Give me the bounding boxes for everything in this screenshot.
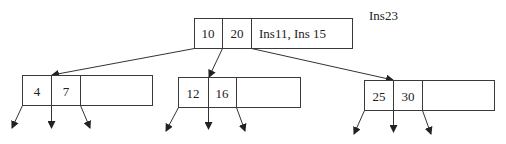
middle-child-pointer-1: [166, 108, 179, 132]
right-key-1: 25: [373, 89, 386, 104]
edge-root-to-right: [252, 49, 394, 81]
edge-root-to-left: [52, 49, 195, 76]
left-child-node: 4 7: [23, 76, 153, 106]
right-key-2: 30: [402, 89, 415, 104]
root-insert-note: Ins11, Ins 15: [259, 26, 326, 41]
middle-key-1: 12: [187, 86, 200, 101]
right-child-node: 25 30: [365, 81, 495, 111]
left-key-2: 7: [63, 84, 70, 99]
left-key-1: 4: [34, 84, 41, 99]
right-empty-cell: [423, 81, 495, 111]
right-child-pointer-1: [354, 111, 365, 135]
edge-root-to-middle: [209, 49, 223, 78]
left-empty-cell: [81, 76, 153, 106]
right-child-pointer-3: [423, 111, 432, 135]
insert-annotation: Ins23: [369, 8, 398, 23]
root-key-2: 20: [231, 26, 244, 41]
middle-empty-cell: [237, 78, 301, 108]
middle-key-2: 16: [216, 86, 230, 101]
b-tree-diagram: 10 20 Ins11, Ins 15 Ins23 4 7 12 16 25 3…: [0, 0, 506, 144]
left-child-pointer-1: [12, 106, 23, 129]
root-node: 10 20 Ins11, Ins 15: [195, 19, 353, 49]
middle-child-pointer-3: [237, 108, 246, 132]
middle-child-node: 12 16: [179, 78, 301, 108]
root-key-1: 10: [202, 26, 215, 41]
left-child-pointer-3: [81, 106, 91, 129]
